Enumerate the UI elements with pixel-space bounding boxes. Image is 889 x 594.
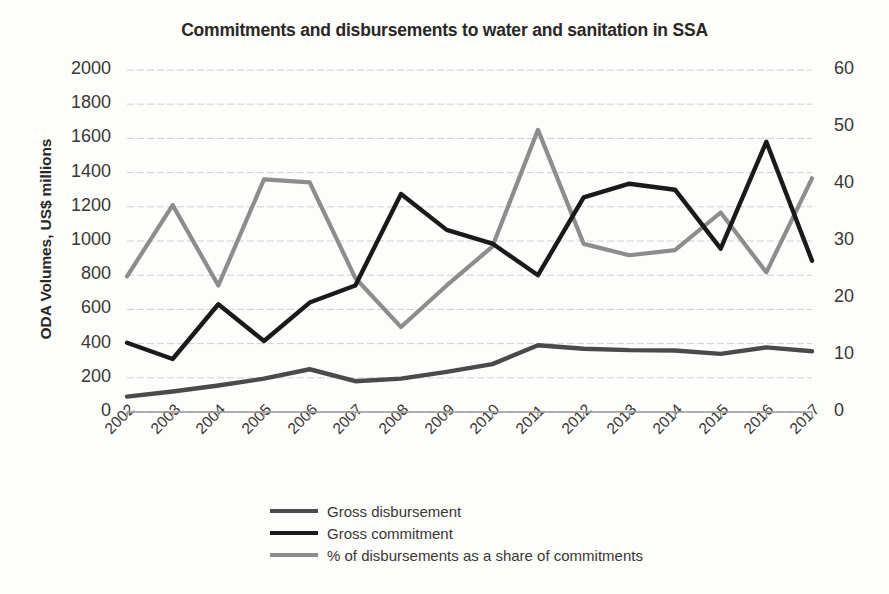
y-tick-label: 1400 — [41, 161, 111, 182]
legend-item[interactable]: Gross commitment — [0, 522, 889, 544]
y2-tick-label: 10 — [834, 343, 889, 364]
x-tick-label: 2007 — [329, 401, 366, 438]
x-tick-label: 2008 — [375, 401, 412, 438]
x-tick-label: 2013 — [603, 401, 640, 438]
y-tick-label: 1200 — [41, 195, 111, 216]
legend-swatch-icon — [270, 509, 318, 513]
legend-item[interactable]: % of disbursements as a share of commitm… — [0, 544, 889, 566]
chart-legend: Gross disbursementGross commitment% of d… — [0, 500, 889, 566]
y-tick-label: 1800 — [41, 92, 111, 113]
legend-swatch-icon — [270, 531, 318, 535]
chart-title: Commitments and disbursements to water a… — [0, 20, 889, 41]
x-tick-label: 2016 — [740, 401, 777, 438]
y2-tick-label: 50 — [834, 115, 889, 136]
x-tick-label: 2010 — [466, 401, 503, 438]
x-tick-label: 2011 — [512, 401, 548, 437]
y2-tick-label: 20 — [834, 286, 889, 307]
legend-item[interactable]: Gross disbursement — [0, 500, 889, 522]
x-tick-label: 2015 — [695, 401, 732, 438]
legend-label: Gross disbursement — [327, 503, 461, 520]
y2-tick-label: 0 — [834, 400, 889, 421]
x-tick-label: 2012 — [558, 401, 595, 438]
y2-tick-label: 40 — [834, 172, 889, 193]
legend-label: % of disbursements as a share of commitm… — [327, 547, 643, 564]
y-tick-label: 400 — [41, 332, 111, 353]
y-tick-label: 0 — [41, 400, 111, 421]
series-line — [127, 142, 812, 359]
chart-container: Commitments and disbursements to water a… — [0, 0, 889, 594]
x-tick-label: 2014 — [649, 401, 686, 438]
y2-tick-label: 30 — [834, 229, 889, 250]
x-tick-label: 2004 — [192, 401, 229, 438]
y-tick-label: 2000 — [41, 58, 111, 79]
y-tick-label: 800 — [41, 263, 111, 284]
y-tick-label: 200 — [41, 366, 111, 387]
x-tick-label: 2005 — [238, 401, 275, 438]
x-tick-label: 2009 — [421, 401, 458, 438]
legend-label: Gross commitment — [327, 525, 453, 542]
series-line — [127, 130, 812, 327]
y-tick-label: 1600 — [41, 126, 111, 147]
y2-tick-label: 60 — [834, 58, 889, 79]
y-tick-label: 600 — [41, 297, 111, 318]
y-tick-label: 1000 — [41, 229, 111, 250]
x-tick-label: 2017 — [786, 401, 823, 438]
legend-swatch-icon — [270, 553, 318, 557]
series-line — [127, 345, 812, 396]
x-tick-label: 2003 — [147, 401, 184, 438]
x-tick-label: 2006 — [284, 401, 321, 438]
